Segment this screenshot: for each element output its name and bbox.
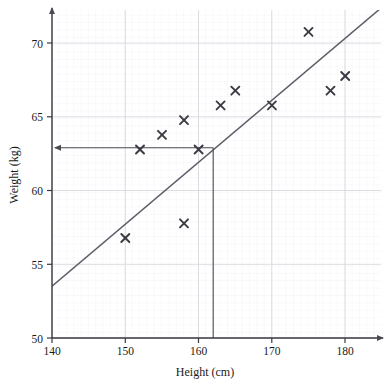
y-axis-title: Weight (kg)	[7, 146, 21, 203]
x-tick-label-180: 180	[336, 345, 354, 357]
x-tick-label-160: 160	[190, 345, 208, 357]
y-tick-label-55: 55	[32, 259, 44, 271]
y-tick-label-60: 60	[32, 185, 44, 197]
y-axis-ticks	[47, 43, 52, 338]
x-tick-label-140: 140	[43, 345, 61, 357]
y-tick-label-65: 65	[32, 111, 44, 123]
x-tick-label-170: 170	[263, 345, 281, 357]
chart-canvas: 140 150 160 170 180 50 55 60 65 70 Heigh…	[0, 0, 391, 389]
x-axis-title: Height (cm)	[176, 365, 234, 379]
y-tick-label-50: 50	[32, 333, 44, 345]
x-axis-ticks	[52, 338, 345, 343]
minor-gridlines	[52, 10, 381, 338]
scatter-chart: 140 150 160 170 180 50 55 60 65 70 Heigh…	[0, 0, 391, 389]
x-tick-label-150: 150	[117, 345, 135, 357]
y-tick-label-70: 70	[32, 38, 44, 50]
